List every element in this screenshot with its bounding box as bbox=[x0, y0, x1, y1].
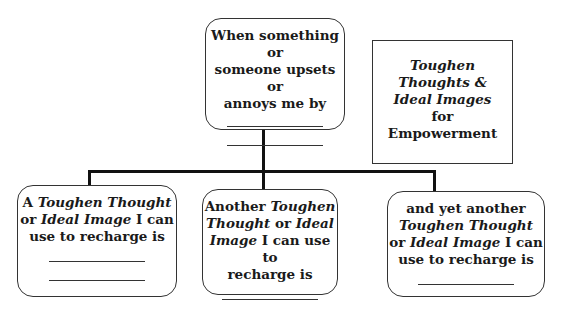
blank-line[interactable] bbox=[418, 284, 514, 285]
child3-line-1: and yet another bbox=[388, 200, 544, 217]
title-line-5: Empowerment bbox=[373, 125, 512, 142]
child1-line-1: A Toughen Thought bbox=[18, 194, 176, 211]
connector-left-drop bbox=[88, 170, 91, 186]
child3-line-3: or Ideal Image I can bbox=[388, 234, 544, 251]
trigger-line-1: When something or bbox=[206, 27, 344, 61]
blank-line[interactable] bbox=[227, 145, 323, 146]
trigger-box: When something or someone upsets or anno… bbox=[205, 18, 345, 130]
recharge-box-2: Another Toughen Thought or Ideal Image I… bbox=[202, 189, 338, 295]
title-line-4: for bbox=[373, 108, 512, 125]
connector-right-drop bbox=[433, 170, 436, 192]
trigger-line-3: annoys me by bbox=[206, 95, 344, 112]
child3-line-2: Toughen Thought bbox=[388, 217, 544, 234]
blank-line[interactable] bbox=[49, 280, 145, 281]
title-line-1: Toughen bbox=[373, 57, 512, 74]
connector-middle-drop bbox=[262, 170, 265, 190]
blank-line[interactable] bbox=[49, 261, 145, 262]
trigger-line-2: someone upsets or bbox=[206, 61, 344, 95]
connector-vertical-main bbox=[262, 128, 265, 173]
recharge-box-1: A Toughen Thought or Ideal Image I can u… bbox=[17, 185, 177, 297]
blank-line[interactable] bbox=[222, 299, 318, 300]
child2-line-4: recharge is bbox=[203, 266, 337, 283]
blank-line[interactable] bbox=[227, 126, 323, 127]
recharge-box-3: and yet another Toughen Thought or Ideal… bbox=[387, 191, 545, 297]
child1-line-3: use to recharge is bbox=[18, 228, 176, 245]
title-line-2: Thoughts & bbox=[373, 74, 512, 91]
child1-line-2: or Ideal Image I can bbox=[18, 211, 176, 228]
title-box: Toughen Thoughts & Ideal Images for Empo… bbox=[372, 40, 513, 164]
title-line-3: Ideal Images bbox=[373, 91, 512, 108]
child3-line-4: use to recharge is bbox=[388, 251, 544, 268]
child2-line-2: Thought or Ideal bbox=[203, 215, 337, 232]
child2-line-1: Another Toughen bbox=[203, 198, 337, 215]
child2-line-3: Image I can use to bbox=[203, 232, 337, 266]
